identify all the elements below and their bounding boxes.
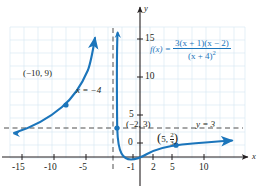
- equation-denominator: (x + 4)2: [173, 48, 231, 61]
- point-marker-minus10-9: [63, 102, 68, 107]
- y-tick-label-0: 0: [128, 138, 133, 148]
- equation-fraction: 3(x + 1)(x − 2) (x + 4)2: [173, 38, 231, 61]
- x-tick-label-5: 5: [170, 163, 175, 173]
- x-tick-label-10: 10: [199, 163, 209, 173]
- equation-numerator: 3(x + 1)(x − 2): [173, 38, 231, 48]
- axis-lines: [2, 7, 248, 186]
- y-axis-label: y: [144, 4, 148, 13]
- annotation-fraction-twothirds: 2 3: [170, 132, 174, 148]
- point-marker-minus2-3: [114, 125, 119, 130]
- x-tick-label-2: 2: [151, 163, 156, 173]
- annotation-point-5-twothirds: (5, 2 3 ): [157, 131, 178, 148]
- annotation-point-minus10-9: (−10, 9): [23, 69, 52, 78]
- figure-rational-function-graph: y x -15 -10 -5 -1 2 5 10 15 10 5 0 f(x) …: [0, 0, 266, 191]
- x-tick-label-minus1: -1: [127, 163, 135, 173]
- annotation-vertical-asymptote: x = −4: [76, 86, 101, 95]
- function-equation: f(x) = 3(x + 1)(x − 2) (x + 4)2: [150, 38, 231, 61]
- annotation-close-paren: ): [174, 130, 178, 145]
- annotation-point-minus2-3: (−2, 3): [126, 120, 151, 129]
- y-tick-label-10: 10: [145, 72, 155, 82]
- x-tick-label-minus15: -15: [12, 163, 25, 173]
- annotation-horizontal-asymptote: y = 3: [196, 120, 215, 129]
- annotation-x-value: 5,: [161, 134, 168, 144]
- equation-lhs: f(x) =: [150, 44, 171, 54]
- x-tick-label-minus5: -5: [79, 163, 87, 173]
- equation-denominator-exponent: 2: [213, 49, 216, 56]
- x-tick-label-minus10: -10: [44, 163, 57, 173]
- x-axis-label: x: [252, 152, 256, 161]
